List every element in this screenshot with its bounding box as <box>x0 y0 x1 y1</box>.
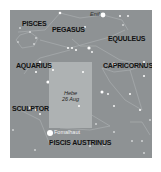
constellation-label-pegasus: PEGASUS <box>52 26 85 33</box>
star-label-enif: Enif <box>90 12 99 18</box>
constellation-label-aquarius: AQUARIUS <box>16 62 52 69</box>
constellation-label-piscis-austrinus: PISCIS AUSTRINUS <box>49 139 111 146</box>
constellation-label-sculptor: SCULPTOR <box>12 105 49 112</box>
star-label-fomalhaut: Fomalhaut <box>54 130 80 136</box>
constellation-label-capricornus: CAPRICORNUS <box>103 62 152 69</box>
highlight-region: Hebe 26 Aug <box>49 62 92 128</box>
constellation-label-pisces: PISCES <box>22 20 46 27</box>
star-chart: Hebe 26 Aug PISCES PEGASUS EQUULEUS AQUA… <box>10 10 152 158</box>
constellation-label-equuleus: EQUULEUS <box>108 35 145 42</box>
